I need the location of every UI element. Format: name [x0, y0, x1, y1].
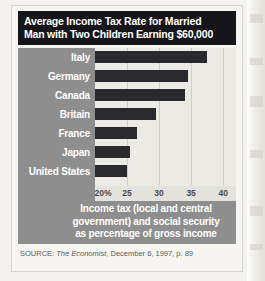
bar-canada: [95, 89, 185, 101]
caption-line-1: Income tax (local and central: [58, 203, 234, 216]
tick-label-25: 25: [122, 188, 131, 198]
tick-label-20: 20%: [94, 188, 111, 198]
chart-body: Italy Germany Canada Britain France Japa…: [18, 48, 236, 244]
chart-title-line-2: Man with Two Children Earning $60,000: [24, 28, 230, 41]
category-label-united-states: United States: [29, 165, 90, 178]
bar-germany: [95, 70, 188, 82]
category-label-france: France: [58, 127, 90, 140]
chart-title: Average Income Tax Rate for Married Man …: [18, 11, 236, 45]
bar-france: [95, 127, 137, 139]
plot-area: [95, 48, 236, 186]
category-label-britain: Britain: [60, 108, 90, 121]
source-publication: The Economist: [56, 249, 106, 258]
bar-italy: [95, 51, 207, 63]
source-rest: , December 6, 1997, p. 89: [106, 249, 193, 258]
source-prefix: SOURCE:: [20, 249, 54, 258]
chart-title-line-1: Average Income Tax Rate for Married: [24, 15, 230, 28]
gridline-30: [159, 48, 160, 186]
category-axis-labels: Italy Germany Canada Britain France Japa…: [18, 48, 95, 186]
adjacent-page-margin: [247, 0, 265, 281]
gridline-35: [191, 48, 192, 186]
category-label-japan: Japan: [62, 146, 90, 159]
value-axis: 20% 25 30 35 40: [95, 186, 236, 201]
tick-label-30: 30: [154, 188, 163, 198]
bar-britain: [95, 108, 156, 120]
caption-line-2: government) and social security: [58, 216, 234, 229]
category-label-canada: Canada: [55, 89, 90, 102]
tick-label-40: 40: [218, 188, 227, 198]
tick-label-35: 35: [186, 188, 195, 198]
chart-caption: Income tax (local and central government…: [58, 203, 234, 241]
category-label-italy: Italy: [71, 51, 90, 64]
chart-figure: Average Income Tax Rate for Married Man …: [12, 6, 242, 271]
source-note: SOURCE: The Economist, December 6, 1997,…: [20, 249, 193, 258]
gridline-40: [223, 48, 224, 186]
bar-united-states: [95, 165, 127, 177]
bar-japan: [95, 146, 130, 158]
caption-line-3: as percentage of gross income: [58, 228, 234, 241]
category-label-germany: Germany: [48, 70, 90, 83]
